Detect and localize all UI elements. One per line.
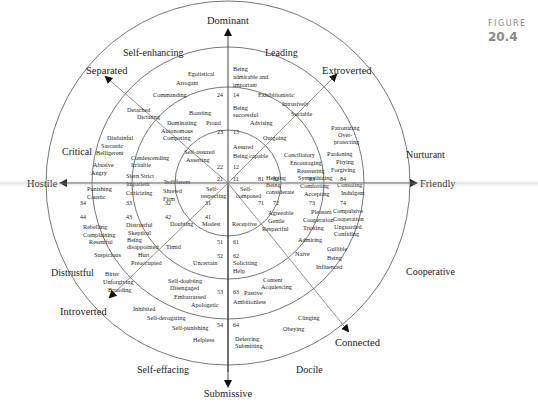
trait-item: Complaining xyxy=(83,231,115,238)
trait-item: Trusting xyxy=(303,224,324,231)
trait-item: Conciliatory xyxy=(284,151,316,158)
trait-item: Apologetic xyxy=(191,301,219,308)
trait-item: Self-punishing xyxy=(172,324,208,331)
axis-label-connected: Connected xyxy=(335,337,381,348)
trait-item: protecting xyxy=(334,138,359,145)
cell-number: 24 xyxy=(217,92,223,98)
trait-item: Dictating xyxy=(137,113,160,120)
trait-item: Inhibited xyxy=(133,305,156,312)
cell-number: 33 xyxy=(126,200,132,206)
octant-distrustful: Distrustful xyxy=(51,267,94,278)
axis-label-introverted: Introverted xyxy=(60,306,107,317)
trait-item: Belligerent xyxy=(96,149,124,156)
octant-self-enhancing: Self-enhancing xyxy=(123,47,184,58)
trait-item: important xyxy=(233,81,257,88)
axis-label-separated: Separated xyxy=(86,65,128,76)
trait-item: Admiring xyxy=(298,236,322,243)
trait-item: Bitter xyxy=(105,270,119,277)
trait-item: Brooding xyxy=(108,286,131,293)
trait-item: Influenced xyxy=(316,263,343,270)
octant-items-5: Inhibited Self-derogating Self-punishing… xyxy=(133,259,219,343)
octant-items-7: Compulsive Cooperation Unguarded Confidi… xyxy=(262,207,364,270)
trait-item: Naive xyxy=(295,250,310,257)
trait-item: Abusive xyxy=(93,161,114,168)
cell-number: 53 xyxy=(217,289,223,295)
trait-item: Suspicious xyxy=(94,251,121,258)
trait-item: Boasting xyxy=(189,109,211,116)
trait-item: Help xyxy=(233,267,245,274)
trait-item: Patronizing xyxy=(331,124,360,131)
trait-item: Shrewd xyxy=(163,187,183,194)
trait-item: Preoccupied xyxy=(131,259,162,266)
trait-item: Caustic xyxy=(87,193,106,200)
trait-item: Respectful xyxy=(262,225,289,232)
trait-item: Hurt xyxy=(138,251,150,258)
trait-item: Disengaged xyxy=(170,284,200,291)
cell-number: 73 xyxy=(309,200,315,206)
trait-item: Stern Strict xyxy=(126,172,154,179)
octant-docile: Docile xyxy=(296,364,323,375)
trait-item: Disdainful xyxy=(107,134,133,141)
trait-item: Cooperation xyxy=(333,215,364,222)
cell-number: 64 xyxy=(233,322,239,328)
trait-item: Self-doubting xyxy=(168,277,202,284)
trait-item: Indulgent xyxy=(341,189,365,196)
trait-item: admirable and xyxy=(233,73,269,80)
trait-item: Timid xyxy=(166,243,182,250)
trait-item: Skeptical xyxy=(128,229,151,236)
trait-item: Reassuring xyxy=(297,167,325,174)
trait-item: Helpless xyxy=(193,336,215,343)
trait-item: Agreeable xyxy=(268,209,294,216)
trait-item: Outgoing xyxy=(263,134,286,141)
trait-item: Doubting xyxy=(170,220,193,227)
cell-number: 71 xyxy=(258,200,264,206)
trait-item: Condescending xyxy=(131,154,169,161)
trait-item: Distrustful xyxy=(126,221,153,228)
cell-number: 22 xyxy=(217,164,223,170)
trait-item: Being xyxy=(327,254,342,261)
trait-item: Rebelling xyxy=(83,223,107,230)
trait-item: Content xyxy=(263,276,283,283)
trait-item: Cooperation xyxy=(303,216,334,223)
trait-item: Intrusively xyxy=(282,100,310,107)
cell-number: 14 xyxy=(233,92,239,98)
trait-item: Angry xyxy=(91,169,108,176)
trait-item: Unforgiving xyxy=(103,278,133,285)
trait-item: Receptive xyxy=(232,220,257,227)
trait-item: Egotistical xyxy=(188,70,215,77)
trait-item: composed xyxy=(236,192,262,199)
cell-number: 13 xyxy=(233,129,239,135)
scan-artifact xyxy=(0,180,538,187)
trait-item: Gentle xyxy=(268,217,285,224)
cell-number: 31 xyxy=(205,200,211,206)
trait-item: Self-assured xyxy=(184,148,215,155)
cell-number: 44 xyxy=(80,214,86,220)
trait-item: Over- xyxy=(338,131,352,138)
trait-item: Being xyxy=(233,104,248,111)
trait-item: Gullible xyxy=(327,245,348,252)
trait-item: Advising xyxy=(250,119,273,126)
trait-item: Irritable xyxy=(131,161,151,168)
trait-item: Being capable xyxy=(233,152,268,159)
trait-item: respecting xyxy=(201,192,226,199)
octant-items-3: Disdainful Sarcastic Belligerent Abusive… xyxy=(87,134,191,202)
trait-item: Asserting xyxy=(186,156,210,163)
trait-item: Arrogant xyxy=(176,79,199,86)
trait-item: Proud xyxy=(206,119,222,126)
trait-item: Accepting xyxy=(304,190,329,197)
octant-self-effacing: Self-effacing xyxy=(137,364,189,375)
cell-number: 34 xyxy=(80,200,86,206)
octant-leading: Leading xyxy=(265,47,298,58)
trait-item: Compulsive xyxy=(333,207,363,214)
trait-item: Obeying xyxy=(283,325,304,332)
cell-number: 12 xyxy=(233,164,239,170)
trait-item: Deferring xyxy=(235,335,259,342)
trait-item: Confiding xyxy=(334,230,359,237)
trait-item: Competing xyxy=(163,134,191,141)
trait-item: Pitying xyxy=(336,158,354,165)
cell-number: 63 xyxy=(233,289,239,295)
trait-item: Detached xyxy=(127,106,151,113)
trait-item: Being xyxy=(233,65,248,72)
cell-number: 61 xyxy=(233,239,239,245)
interpersonal-circumplex-diagram: Dominant Submissive Hostile Friendly Sep… xyxy=(0,0,538,405)
